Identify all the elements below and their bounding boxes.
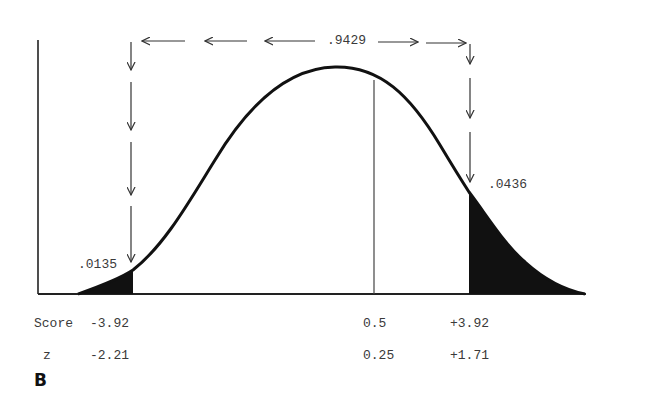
right-tail-area-label: .0436 <box>488 178 527 191</box>
left-tail-area-label: .0135 <box>78 258 117 271</box>
middle-area-label: .9429 <box>327 34 366 47</box>
score-center-value: 0.5 <box>363 317 386 330</box>
normal-distribution-figure: .9429 .0135 .0436 Score -3.92 0.5 +3.92 … <box>0 0 645 409</box>
score-left-value: -3.92 <box>90 317 129 330</box>
z-right-value: +1.71 <box>450 349 489 362</box>
score-right-value: +3.92 <box>450 317 489 330</box>
score-row-label: Score <box>34 317 73 330</box>
middle-area-arrows <box>142 41 466 43</box>
z-left-value: -2.21 <box>90 349 129 362</box>
panel-label: B <box>34 372 47 389</box>
right-tail-shaded-area <box>469 192 585 294</box>
z-row-label: z <box>43 349 51 362</box>
z-center-value: 0.25 <box>363 349 394 362</box>
